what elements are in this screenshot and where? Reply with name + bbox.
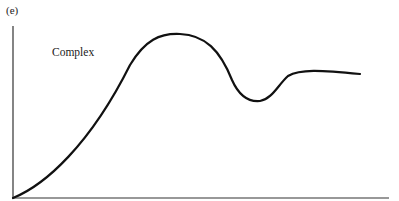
line-chart: (e) Complex xyxy=(0,0,399,201)
plot-area xyxy=(0,0,399,201)
complex-curve xyxy=(13,34,360,198)
